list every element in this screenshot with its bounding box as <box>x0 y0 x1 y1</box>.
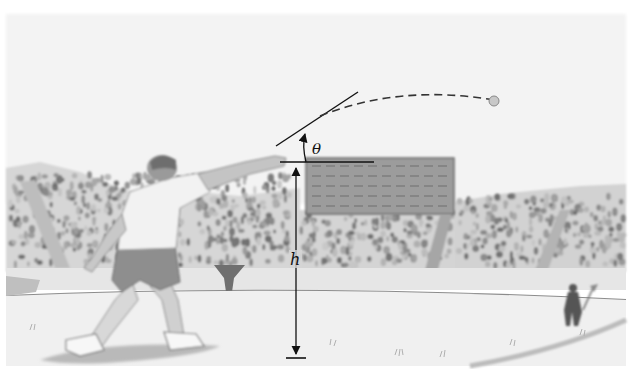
spectator-mark <box>403 228 406 233</box>
spectator-mark <box>354 218 357 223</box>
spectator-mark <box>221 231 225 236</box>
spectator-mark <box>260 200 266 205</box>
spectator-mark <box>355 256 362 263</box>
spectator-mark <box>522 235 526 241</box>
spectator-mark <box>83 203 87 208</box>
spectator-mark <box>189 256 192 263</box>
spectator-mark <box>608 227 614 233</box>
spectator-mark <box>200 229 206 235</box>
spectator-mark <box>58 188 62 197</box>
spectator-mark <box>209 209 214 214</box>
spectator-mark <box>87 171 92 179</box>
spectator-mark <box>14 261 17 269</box>
spectator-mark <box>272 194 278 199</box>
spectator-mark <box>201 200 205 209</box>
spectator-mark <box>178 252 182 258</box>
spectator-mark <box>327 230 333 237</box>
spectator-mark <box>273 230 276 234</box>
spectator-mark <box>584 223 588 231</box>
spectator-mark <box>281 221 285 229</box>
spectator-mark <box>620 243 625 248</box>
spectator-mark <box>476 223 479 231</box>
spectator-mark <box>268 174 274 183</box>
spectator-mark <box>573 211 577 216</box>
spectator-mark <box>619 199 624 205</box>
spectator-mark <box>221 195 227 201</box>
spectator-mark <box>91 204 96 211</box>
spectator-mark <box>234 204 239 208</box>
spectator-mark <box>223 200 229 208</box>
spectator-mark <box>613 260 617 267</box>
spectator-mark <box>496 251 503 258</box>
spectator-mark <box>42 174 48 178</box>
spectator-mark <box>344 263 349 268</box>
spectator-mark <box>548 219 552 227</box>
spectator-mark <box>617 253 623 260</box>
spectator-mark <box>598 221 601 226</box>
spectator-mark <box>265 236 272 243</box>
spectator-mark <box>309 233 316 239</box>
spectator-mark <box>524 199 529 205</box>
stadium-wall <box>6 268 626 290</box>
spectator-mark <box>407 230 413 234</box>
spectator-mark <box>78 216 81 221</box>
spectator-mark <box>572 221 578 226</box>
spectator-mark <box>229 227 235 236</box>
spectator-mark <box>262 244 265 250</box>
spectator-mark <box>277 244 284 249</box>
spectator-mark <box>231 238 234 245</box>
spectator-mark <box>249 246 252 250</box>
spectator-mark <box>575 244 582 249</box>
spectator-mark <box>216 234 221 239</box>
spectator-mark <box>360 233 366 241</box>
spectator-mark <box>579 257 583 266</box>
spectator-mark <box>584 207 589 213</box>
spectator-mark <box>265 259 271 264</box>
spectator-mark <box>494 194 500 201</box>
spectator-mark <box>612 208 617 217</box>
spectator-mark <box>198 255 202 263</box>
spectator-mark <box>361 222 365 226</box>
spectator-mark <box>69 197 75 201</box>
spectator-mark <box>23 216 29 224</box>
spectator-mark <box>480 230 487 235</box>
spectator-mark <box>594 231 601 236</box>
spectator-mark <box>487 255 492 260</box>
spectator-mark <box>70 222 77 229</box>
spectator-mark <box>419 223 422 227</box>
spectator-mark <box>413 231 418 236</box>
spectator-mark <box>84 226 87 231</box>
spectator-mark <box>485 215 490 224</box>
spectator-mark <box>325 220 331 226</box>
spectator-mark <box>104 174 111 180</box>
spectator-mark <box>206 256 211 261</box>
spectator-mark <box>238 229 245 233</box>
spectator-mark <box>585 260 590 267</box>
spectator-mark <box>97 209 100 213</box>
spectator-mark <box>372 218 376 224</box>
spectator-mark <box>208 235 214 243</box>
spectator-mark <box>197 221 201 226</box>
spectator-mark <box>216 198 220 205</box>
spectator-mark <box>72 173 78 178</box>
spectator-mark <box>605 235 610 244</box>
spectator-mark <box>242 192 247 199</box>
spectator-mark <box>98 198 103 202</box>
spectator-mark <box>567 200 573 204</box>
spectator-mark <box>564 228 568 233</box>
spectator-mark <box>87 243 93 247</box>
spectator-mark <box>61 231 65 236</box>
spectator-mark <box>532 240 535 246</box>
spectator-mark <box>232 217 237 223</box>
spectator-mark <box>621 214 626 222</box>
spectator-mark <box>11 240 16 245</box>
spectator-mark <box>267 218 270 226</box>
spectator-mark <box>222 244 228 252</box>
spectator-mark <box>616 223 622 231</box>
spectator-mark <box>18 254 25 259</box>
spectator-mark <box>312 219 316 227</box>
spectator-mark <box>216 219 221 226</box>
spectator-mark <box>426 223 431 227</box>
spectator-mark <box>588 234 591 238</box>
spectator-mark <box>18 221 21 228</box>
